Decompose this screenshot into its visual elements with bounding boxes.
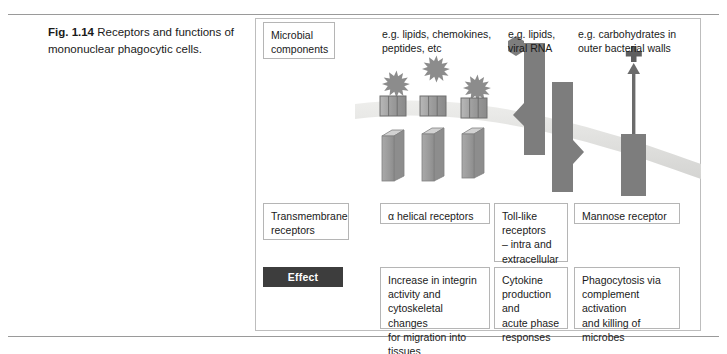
figure-number: Fig. 1.14	[48, 26, 97, 38]
ligand-caption-toll-like: e.g. lipids, viral RNA	[508, 27, 578, 55]
label-microbial-components: Microbial components	[263, 22, 335, 59]
label-transmembrane-receptors: Transmembrane receptors	[263, 203, 349, 240]
effect-box-phagocytosis: Phagocytosis via complement activation a…	[574, 267, 680, 329]
ligand-caption-mannose: e.g. carbohydrates in outer bacterial wa…	[578, 27, 690, 55]
top-rule	[8, 14, 719, 15]
effect-box-cytokine: Cytokine production and acute phase resp…	[494, 267, 568, 329]
receptor-box-toll-like: Toll-like receptors – intra and extracel…	[494, 203, 568, 262]
receptor-box-mannose: Mannose receptor	[574, 203, 680, 224]
ligand-caption-alpha-helical: e.g. lipids, chemokines, peptides, etc	[382, 27, 502, 55]
effect-box-integrin: Increase in integrin activity and cytosk…	[380, 267, 490, 329]
label-effect-chip: Effect	[263, 267, 343, 287]
receptor-box-alpha-helical: α helical receptors	[380, 203, 490, 224]
figure-caption: Fig. 1.14 Receptors and functions of mon…	[48, 24, 238, 57]
figure-container: Fig. 1.14 Receptors and functions of mon…	[0, 0, 727, 354]
